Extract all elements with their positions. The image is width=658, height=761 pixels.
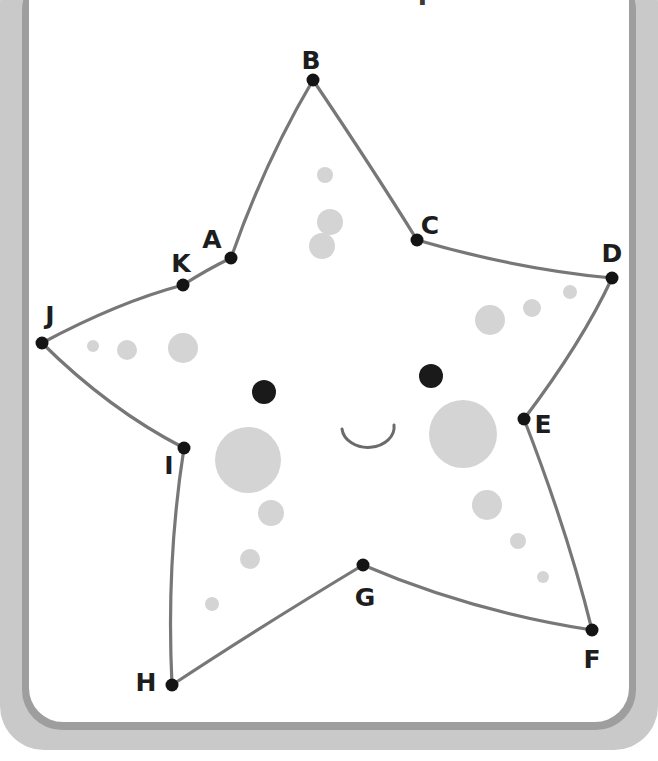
vertex-dot-a[interactable] — [225, 252, 238, 265]
vertex-dot-g[interactable] — [357, 559, 370, 572]
vertex-dot-k[interactable] — [177, 279, 190, 292]
body-spot — [87, 340, 99, 352]
eye — [419, 364, 443, 388]
vertex-dot-j[interactable] — [36, 337, 49, 350]
body-spots-group — [87, 167, 577, 611]
body-spot — [475, 305, 505, 335]
vertex-dot-e[interactable] — [518, 413, 531, 426]
vertex-dot-b[interactable] — [307, 74, 320, 87]
body-spot — [472, 490, 502, 520]
eye — [252, 380, 276, 404]
body-spot — [168, 333, 198, 363]
point-label-k: K — [171, 251, 190, 276]
connect-the-dots-drawing — [0, 0, 658, 761]
body-spot — [510, 533, 526, 549]
body-spot — [523, 299, 541, 317]
body-spot — [429, 400, 497, 468]
body-spot — [309, 233, 335, 259]
point-label-c: C — [421, 213, 439, 238]
point-label-a: A — [202, 227, 221, 252]
vertex-dot-f[interactable] — [586, 624, 599, 637]
vertex-dot-d[interactable] — [606, 272, 619, 285]
body-spot — [537, 571, 549, 583]
point-label-e: E — [534, 412, 551, 437]
body-spot — [317, 209, 343, 235]
body-spot — [563, 285, 577, 299]
body-spot — [215, 427, 281, 493]
screenshot-root: Connect the dots puzzle ABCDEFGHIJK — [0, 0, 658, 761]
body-spot — [258, 500, 284, 526]
point-label-g: G — [355, 585, 376, 610]
point-label-i: I — [164, 453, 173, 478]
point-label-j: J — [45, 303, 54, 328]
point-label-d: D — [602, 241, 623, 266]
body-spot — [205, 597, 219, 611]
mouth-smile — [342, 425, 394, 447]
vertex-dot-i[interactable] — [178, 442, 191, 455]
body-spot — [317, 167, 333, 183]
point-label-b: B — [301, 48, 320, 73]
point-label-f: F — [583, 647, 600, 672]
body-spot — [240, 549, 260, 569]
body-spot — [117, 340, 137, 360]
point-label-h: H — [136, 670, 157, 695]
vertex-dot-h[interactable] — [166, 679, 179, 692]
